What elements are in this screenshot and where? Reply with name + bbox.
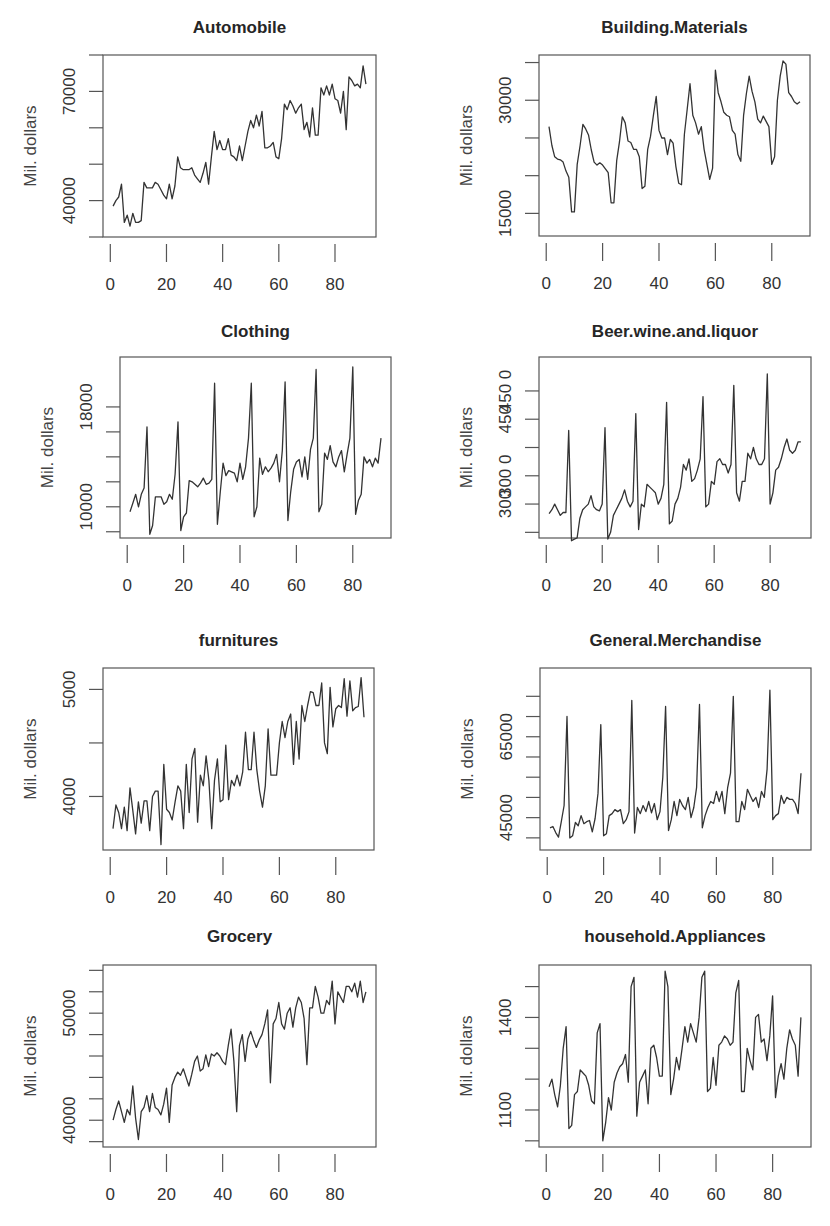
y-tick-label: 10000 <box>77 483 96 530</box>
figure-background <box>0 0 830 1226</box>
y-tick-label: 40000 <box>60 1097 79 1144</box>
x-tick-label: 80 <box>762 274 781 293</box>
y-axis-label: Mil. dollars <box>21 1015 40 1096</box>
x-tick-label: 60 <box>270 888 289 907</box>
y-tick-label: 15000 <box>496 190 515 237</box>
x-tick-label: 60 <box>287 576 306 595</box>
x-tick-label: 20 <box>593 576 612 595</box>
x-tick-label: 80 <box>343 576 362 595</box>
x-tick-label: 80 <box>326 888 345 907</box>
x-tick-label: 40 <box>213 275 232 294</box>
y-tick-label: 30000 <box>496 77 515 124</box>
y-tick-label: 45000 <box>497 794 516 841</box>
x-tick-label: 20 <box>174 576 193 595</box>
panel-title: Beer.wine.and.liquor <box>592 322 759 341</box>
x-tick-label: 40 <box>649 576 668 595</box>
x-tick-label: 40 <box>651 888 670 907</box>
x-tick-label: 0 <box>542 888 551 907</box>
x-tick-label: 0 <box>122 576 131 595</box>
y-tick-label: 5000 <box>60 670 79 708</box>
panel-title: Clothing <box>221 322 290 341</box>
y-tick-label: 1400 <box>496 999 515 1037</box>
x-tick-label: 0 <box>106 275 115 294</box>
panel-title: Building.Materials <box>601 18 747 37</box>
x-tick-label: 60 <box>269 1185 288 1204</box>
x-tick-label: 20 <box>593 1185 612 1204</box>
x-tick-label: 0 <box>542 576 551 595</box>
y-tick-label: 65000 <box>497 713 516 760</box>
y-axis-label: Mil. dollars <box>21 718 40 799</box>
x-tick-label: 40 <box>231 576 250 595</box>
x-tick-label: 60 <box>707 1185 726 1204</box>
y-tick-label: 18000 <box>77 383 96 430</box>
x-tick-label: 60 <box>706 274 725 293</box>
x-tick-label: 40 <box>650 274 669 293</box>
y-tick-label: 1100 <box>496 1092 515 1129</box>
y-tick-label: 4000 <box>60 778 79 816</box>
panel-title: Grocery <box>207 927 273 946</box>
x-tick-label: 20 <box>593 274 612 293</box>
x-tick-label: 60 <box>705 576 724 595</box>
panel-title: Automobile <box>193 18 287 37</box>
y-tick-label: 450 0 <box>496 370 515 413</box>
chart-figure: Automobile Mil. dollars 0204060804000070… <box>0 0 830 1226</box>
x-tick-label: 20 <box>157 275 176 294</box>
x-tick-label: 80 <box>763 1185 782 1204</box>
y-tick-label: 70000 <box>60 68 79 115</box>
x-tick-label: 40 <box>214 888 233 907</box>
x-tick-label: 60 <box>269 275 288 294</box>
x-tick-label: 80 <box>326 1185 345 1204</box>
x-tick-label: 80 <box>326 275 345 294</box>
y-tick-label: 300 0 <box>496 455 515 498</box>
y-axis-label: Mil. dollars <box>458 718 477 799</box>
x-tick-label: 20 <box>157 1185 176 1204</box>
x-tick-label: 0 <box>106 1185 115 1204</box>
y-axis-label: Mil. dollars <box>457 105 476 186</box>
x-tick-label: 60 <box>707 888 726 907</box>
panel-title: furnitures <box>199 631 278 650</box>
x-tick-label: 20 <box>594 888 613 907</box>
x-tick-label: 0 <box>105 888 114 907</box>
y-axis-label: Mil. dollars <box>21 105 40 186</box>
x-tick-label: 20 <box>157 888 176 907</box>
y-axis-label: Mil. dollars <box>457 1015 476 1096</box>
panel-title: household.Appliances <box>584 927 765 946</box>
x-tick-label: 40 <box>650 1185 669 1204</box>
y-axis-label: Mil. dollars <box>38 407 57 488</box>
x-tick-label: 0 <box>541 274 550 293</box>
y-axis-label: Mil. dollars <box>457 407 476 488</box>
panel-title: General.Merchandise <box>590 631 762 650</box>
x-tick-label: 80 <box>761 576 780 595</box>
x-tick-label: 0 <box>542 1185 551 1204</box>
x-tick-label: 80 <box>763 888 782 907</box>
x-tick-label: 40 <box>213 1185 232 1204</box>
y-tick-label: 40000 <box>60 177 79 224</box>
y-tick-label: 50000 <box>60 990 79 1037</box>
